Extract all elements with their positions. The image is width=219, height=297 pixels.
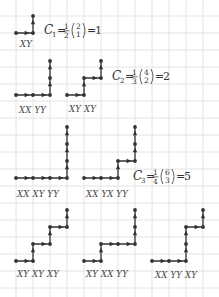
path-node [31,93,35,97]
path-label: XY XY XY [16,269,60,279]
fraction-denominator: 3 [132,77,137,86]
path-node [150,259,154,263]
fraction-denominator: 4 [153,177,158,186]
path-node [99,176,103,180]
arrow-icon [65,214,69,219]
path-node [65,176,69,180]
path-node [82,259,86,263]
arrow-icon [48,231,52,236]
right-paren [172,169,174,184]
diagram-svg: XYXX YYXY XYXX XY YYXX YX YYXY XY XYXY X… [0,0,219,297]
path-line [16,16,33,33]
path-node [133,159,137,163]
arrow-icon [93,176,98,180]
path-node [184,242,188,246]
arrow-icon [25,176,30,180]
arrow-icon [93,259,98,263]
path-node [65,125,69,129]
path-node [99,242,103,246]
path-label: XX XY YY [16,189,60,199]
arrow-icon [178,259,183,263]
path-node [133,242,137,246]
path-node [116,176,120,180]
path-node [14,31,18,35]
path-node [65,208,69,212]
arrow-icon [59,225,64,229]
path-node [82,93,86,97]
path-node [31,242,35,246]
lattice-path [82,208,137,263]
arrow-icon [25,31,30,35]
catalan-formula: C2=1342=2 [112,68,170,86]
path-node [48,242,52,246]
path-node [133,142,137,146]
arrow-icon [25,259,30,263]
path-node [31,176,35,180]
lattice-path [14,208,69,263]
fraction-numerator: 1 [153,168,158,177]
path-node [31,259,35,263]
path-node [82,76,86,80]
arrow-icon [93,76,98,80]
path-node [116,242,120,246]
arrow-icon [201,214,205,219]
formula-result: 1 [95,24,102,37]
formula-result: 5 [184,170,191,183]
path-line [152,210,203,261]
path-label: XX YY XY [154,270,198,280]
arrow-icon [116,165,120,170]
arrow-icon [127,242,132,246]
catalan-paths-diagram: XYXX YYXY XYXX XY YYXX YX YYXY XY XYXY X… [0,0,219,297]
path-node [48,225,52,229]
left-paren [161,169,163,184]
binomial-bottom: 1 [76,30,81,39]
binomial-bottom: 3 [165,176,170,185]
path-node [14,93,18,97]
path-node [82,176,86,180]
formula-result: 2 [163,70,170,83]
fraction-denominator: 2 [64,31,69,40]
path-label: XY XY [68,104,97,114]
arrow-icon [42,93,47,97]
path-label: XY XX YY [85,269,129,279]
arrow-icon [127,159,132,163]
path-node [167,259,171,263]
path-label: XY [19,39,33,49]
path-node [14,176,18,180]
arrow-icon [59,176,64,180]
arrow-icon [42,176,47,180]
path-node [48,76,52,80]
path-node [99,59,103,63]
path-node [133,208,137,212]
path-line [16,210,67,261]
formula-subscript: 1 [52,31,56,39]
arrow-icon [65,131,69,136]
arrow-icon [65,148,69,153]
arrow-icon [133,148,137,153]
lattice-path [14,14,35,35]
path-node [14,259,18,263]
path-node [133,225,137,229]
formula-subscript: 2 [120,77,124,85]
arrow-icon [195,225,200,229]
arrow-icon [110,242,115,246]
path-label: XX YY [18,105,47,115]
lattice-path [150,208,205,263]
arrow-icon [184,231,188,236]
path-node [99,259,103,263]
catalan-formula: C3=1463=5 [133,168,191,186]
left-paren [140,69,142,84]
arrow-icon [133,131,137,136]
arrow-icon [31,20,35,25]
arrow-icon [65,165,69,170]
lattice-paths [14,14,205,263]
lattice-path [14,125,69,180]
arrow-icon [133,231,137,236]
arrow-icon [31,248,35,253]
path-node [201,225,205,229]
binomial-bottom: 2 [144,76,149,85]
path-node [184,259,188,263]
path-node [48,93,52,97]
path-node [48,59,52,63]
catalan-formula: C1=1221=1 [44,22,102,40]
